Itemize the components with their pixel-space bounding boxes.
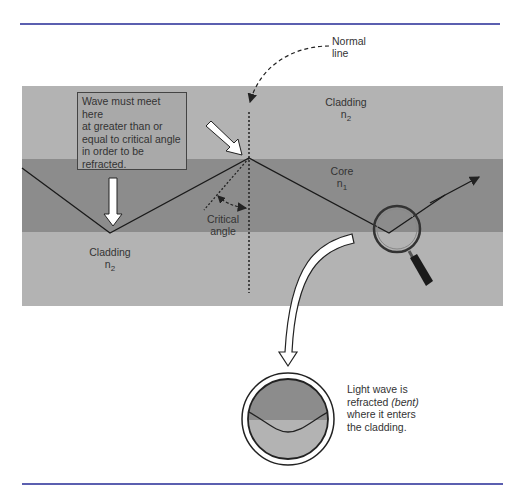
zoom-circle-icon xyxy=(240,370,340,470)
critical-text-2: angle xyxy=(198,225,248,237)
cladding-top-index: n2 xyxy=(316,108,376,125)
note-line: refracted. xyxy=(82,158,182,171)
note-line: Wave must meet here xyxy=(82,95,182,120)
note-line: at greater than or xyxy=(82,120,182,133)
core-label: Core n1 xyxy=(322,165,362,194)
cladding-bottom-text: Cladding xyxy=(80,246,140,258)
cladding-top-text: Cladding xyxy=(316,96,376,108)
caption-line: where it enters xyxy=(347,408,457,421)
note-line: equal to critical angle xyxy=(82,133,182,146)
critical-text-1: Critical xyxy=(198,213,248,225)
core-index: n1 xyxy=(322,177,362,194)
refraction-caption: Light wave is refracted (bent) where it … xyxy=(347,383,457,433)
caption-line: the cladding. xyxy=(347,421,457,434)
caption-line: Light wave is xyxy=(347,383,457,396)
cladding-top-label: Cladding n2 xyxy=(316,96,376,125)
normal-line-label: Normal line xyxy=(332,35,366,59)
normal-label-line2: line xyxy=(332,47,366,59)
normal-label-line1: Normal xyxy=(332,35,366,47)
note-box: Wave must meet here at greater than or e… xyxy=(77,92,187,170)
cladding-bottom-label: Cladding n2 xyxy=(80,246,140,275)
critical-angle-label: Critical angle xyxy=(198,213,248,237)
cladding-bottom-index: n2 xyxy=(80,258,140,275)
caption-line: refracted (bent) xyxy=(347,396,457,409)
core-text: Core xyxy=(322,165,362,177)
note-line: in order to be xyxy=(82,145,182,158)
